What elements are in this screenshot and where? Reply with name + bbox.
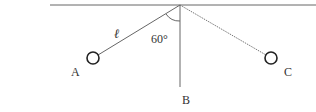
string-to-a: [98, 5, 180, 55]
label-b: B: [182, 93, 190, 107]
label-a: A: [71, 65, 80, 79]
label-length: ℓ: [114, 26, 120, 41]
angle-arc: [166, 14, 180, 21]
bob-a: [87, 52, 99, 64]
bob-c: [265, 52, 277, 64]
label-angle: 60°: [151, 32, 168, 46]
pendulum-diagram: ℓ 60° A B C: [0, 0, 316, 112]
label-c: C: [284, 65, 292, 79]
string-to-c: [180, 5, 266, 55]
